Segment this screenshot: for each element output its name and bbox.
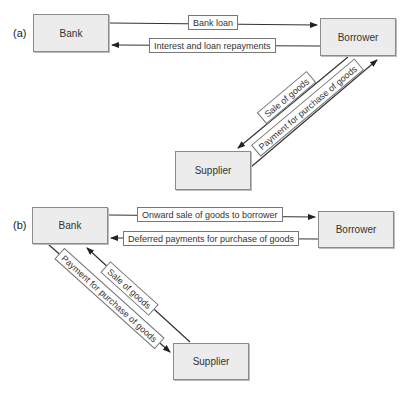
borrower-label: Borrower bbox=[336, 224, 377, 235]
bank-label: Bank bbox=[59, 220, 82, 231]
borrower-node-a: Borrower bbox=[320, 18, 396, 56]
flow-label-deferred-payments: Deferred payments for purchase of goods bbox=[123, 231, 299, 246]
supplier-node-b: Supplier bbox=[173, 343, 249, 380]
bank-label: Bank bbox=[60, 28, 83, 39]
connector-lines bbox=[0, 0, 406, 394]
flow-label-bank-loan: Bank loan bbox=[188, 15, 238, 30]
borrower-node-b: Borrower bbox=[318, 211, 394, 248]
supplier-node-a: Supplier bbox=[175, 151, 251, 190]
borrower-label: Borrower bbox=[338, 32, 379, 43]
flow-label-interest-repayments: Interest and loan repayments bbox=[149, 38, 276, 53]
supplier-label: Supplier bbox=[195, 165, 232, 176]
panel-label-a: (a) bbox=[13, 27, 26, 39]
panel-label-b: (b) bbox=[13, 219, 26, 231]
flow-label-onward-sale: Onward sale of goods to borrower bbox=[137, 207, 283, 222]
supplier-label: Supplier bbox=[193, 356, 230, 367]
bank-node-a: Bank bbox=[33, 14, 109, 52]
bank-node-b: Bank bbox=[32, 207, 108, 244]
